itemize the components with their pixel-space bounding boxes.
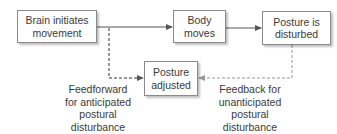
arrow-feedback bbox=[199, 45, 292, 78]
node-posture-disturbed: Posture is disturbed bbox=[262, 11, 331, 45]
label-feedback: Feedback for unanticipated postural dist… bbox=[210, 83, 290, 133]
node-body-moves: Body moves bbox=[173, 10, 226, 43]
node-brain-initiates-movement: Brain initiates movement bbox=[17, 10, 97, 43]
arrow-feedforward bbox=[109, 28, 143, 78]
node-posture-adjusted: Posture adjusted bbox=[144, 61, 198, 96]
label-feedforward: Feedforward for anticipated postural dis… bbox=[58, 83, 138, 133]
